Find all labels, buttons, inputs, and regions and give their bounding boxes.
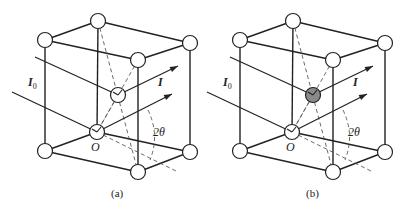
diffracted-beam-upper [313,66,373,95]
incident-intensity-label: I0 [28,76,37,91]
atom-top-right [378,36,393,51]
origin-label: O [91,141,100,153]
cube-edge-top [45,21,98,40]
arrowhead-icon [170,66,178,72]
atom-bottom-right [378,145,393,160]
cube-edge-top [45,40,138,60]
origin-label-text: O [286,140,295,154]
cube-edge-top [98,21,190,43]
cube-edge-bottom [240,132,292,151]
angle-label: 2θ [348,126,360,138]
arrowhead-icon [359,94,367,100]
incident-beam-lower [12,92,97,132]
cube-edge-top [240,21,293,40]
diagram-svg [195,0,397,208]
arrowhead-icon [365,66,373,72]
atom-top-back [286,14,301,29]
panel-a-unit-cell-diffraction: I0IO2θ(a) [0,0,202,208]
cube-edge-top [240,40,333,60]
atom-top-left [38,33,53,48]
panel-caption-text: (a) [111,187,123,199]
incident-intensity-label: I0 [223,76,232,91]
origin-label-text: O [91,140,100,154]
incident-beam-upper [35,57,118,95]
cube-edge-top [293,21,385,43]
incident-beam-lower [207,92,292,132]
cube-edge-bottom [45,132,97,151]
atom-top-left [233,33,248,48]
diffracted-beam-upper [118,66,178,95]
cube-edge-top [138,43,190,60]
diffracted-intensity-label: I [353,76,358,88]
diffracted-intensity-label-text: I [158,75,163,89]
incident-intensity-label-subscript: 0 [33,82,37,91]
arrowhead-icon [164,94,172,100]
diagram-svg [0,0,202,208]
incident-intensity-label-subscript: 0 [228,82,232,91]
cube-edge-top [333,43,385,60]
angle-label-text: 2θ [348,125,360,139]
panel-caption: (b) [306,188,319,199]
cube-edge-bottom [333,152,385,172]
panel-caption-text: (b) [306,187,319,199]
cube-edge-bottom [292,132,385,152]
atom-bottom-left [38,144,53,159]
atom-top-front [131,53,146,68]
cube-edge-bottom [240,151,333,172]
incident-beam-upper [230,57,313,95]
cube-edge-back-vertical [97,21,98,132]
angle-label: 2θ [153,126,165,138]
cube-edge-bottom [138,152,190,172]
atom-top-back [91,14,106,29]
xray-diffraction-figure: I0IO2θ(a) I0IO2θ(b) [0,0,404,208]
atom-bottom-left [233,144,248,159]
cube-edge-back-vertical [292,21,293,132]
cube-edge-bottom [45,151,138,172]
diffracted-intensity-label: I [158,76,163,88]
origin-label: O [286,141,295,153]
angle-label-text: 2θ [153,125,165,139]
cube-edge-bottom [97,132,190,152]
atom-bottom-front [131,165,146,180]
panel-caption: (a) [111,188,123,199]
panel-b-unit-cell-diffraction: I0IO2θ(b) [195,0,397,208]
atom-bottom-front [326,165,341,180]
atom-top-front [326,53,341,68]
diffracted-intensity-label-text: I [353,75,358,89]
